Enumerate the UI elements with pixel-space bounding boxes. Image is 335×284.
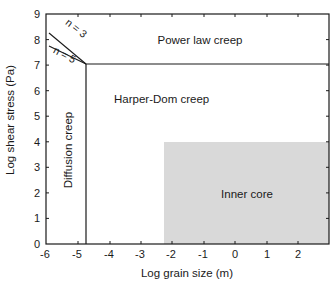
deformation-mechanism-map: -6 -5 -4 -3 -2 -1 0 1 2 0 1 2 3 4 5 6 7 … xyxy=(0,0,335,284)
y-tick-label: 6 xyxy=(34,85,40,97)
y-tick-label: 4 xyxy=(34,136,40,148)
n5-label: n = 5 xyxy=(52,44,79,66)
y-tick-label: 9 xyxy=(34,8,40,20)
power-law-creep-label: Power law creep xyxy=(157,34,242,46)
x-tick-label: 0 xyxy=(232,248,238,260)
y-tick-labels: 0 1 2 3 4 5 6 7 8 9 xyxy=(34,8,40,250)
harper-dorn-creep-label: Harper-Dom creep xyxy=(114,93,209,105)
x-tick-label: -3 xyxy=(135,248,145,260)
x-tick-labels: -6 -5 -4 -3 -2 -1 0 1 2 xyxy=(40,248,301,260)
x-tick-label: -5 xyxy=(72,248,82,260)
x-tick-label: -6 xyxy=(40,248,50,260)
y-tick-label: 1 xyxy=(34,212,40,224)
x-tick-label: 2 xyxy=(295,248,301,260)
x-tick-label: -2 xyxy=(166,248,176,260)
x-tick-label: -4 xyxy=(104,248,114,260)
y-axis-title: Log shear stress (Pa) xyxy=(4,65,16,175)
y-tick-label: 2 xyxy=(34,187,40,199)
inner-core-label: Inner core xyxy=(221,188,273,200)
y-tick-label: 3 xyxy=(34,161,40,173)
y-tick-label: 8 xyxy=(34,34,40,46)
x-tick-label: -1 xyxy=(198,248,208,260)
y-tick-label: 5 xyxy=(34,110,40,122)
n3-label: n = 3 xyxy=(63,16,89,40)
x-axis-title: Log grain size (m) xyxy=(141,267,233,279)
diffusion-creep-label: Diffusion creep xyxy=(62,112,74,189)
x-tick-label: 1 xyxy=(264,248,270,260)
y-tick-label: 0 xyxy=(34,238,40,250)
y-tick-label: 7 xyxy=(34,59,40,71)
